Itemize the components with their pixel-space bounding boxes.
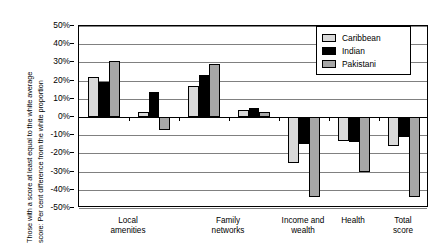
x-axis-tick-mark <box>129 117 130 121</box>
gridline <box>79 208 427 209</box>
bar-indian <box>399 117 410 137</box>
y-axis-tick-mark <box>70 152 74 153</box>
y-axis-tick-labels: 50%40%30%20%10%0%-10%-20%-30%-40%-50% <box>0 25 74 207</box>
bar-pakistani <box>159 117 170 130</box>
legend-item[interactable]: Pakistani <box>322 57 405 70</box>
y-axis-tick-label: 10% <box>53 93 70 102</box>
legend-item[interactable]: Indian <box>322 44 405 57</box>
gridline <box>79 172 427 173</box>
y-axis-tick-label: 0% <box>58 112 70 121</box>
bar-pakistani <box>359 117 370 172</box>
bar-pakistani <box>259 112 270 117</box>
x-axis-category-labels: Local amenitiesFamily networksIncome and… <box>78 210 428 246</box>
x-axis-tick-mark <box>379 117 380 121</box>
bar-indian <box>149 92 160 117</box>
bar-caribbean <box>288 117 299 163</box>
bar-caribbean <box>188 86 199 117</box>
bar-indian <box>249 108 260 117</box>
y-axis-tick-mark <box>70 207 74 208</box>
y-axis-tick-mark <box>70 134 74 135</box>
y-axis-tick-label: -20% <box>50 148 70 157</box>
legend-swatch-icon <box>322 47 336 55</box>
bar-pakistani <box>209 64 220 117</box>
y-axis-tick-label: -50% <box>50 203 70 212</box>
gridline <box>79 81 427 82</box>
zero-line <box>79 117 427 118</box>
y-axis-tick-label: -30% <box>50 166 70 175</box>
y-axis-tick-label: 30% <box>53 57 70 66</box>
y-axis-tick-mark <box>70 25 74 26</box>
x-axis-category-label: Total score <box>391 216 416 236</box>
gridline <box>79 190 427 191</box>
gridline <box>79 153 427 154</box>
legend-swatch-icon <box>322 34 336 42</box>
x-axis-category-label: Income and wealth <box>282 216 325 236</box>
bar-indian <box>199 75 210 117</box>
bar-caribbean <box>138 112 149 117</box>
y-axis-tick-label: -40% <box>50 184 70 193</box>
bar-indian <box>299 117 310 144</box>
x-axis-tick-mark <box>279 117 280 121</box>
y-axis-tick-mark <box>70 61 74 62</box>
legend-label: Indian <box>342 46 365 56</box>
bar-caribbean <box>388 117 399 146</box>
y-axis-tick-mark <box>70 171 74 172</box>
x-axis-category-label: Family networks <box>212 216 245 236</box>
bar-pakistani <box>409 117 420 197</box>
y-axis-tick-mark <box>70 43 74 44</box>
x-axis-category-label: Health <box>341 216 365 226</box>
legend-item[interactable]: Caribbean <box>322 31 405 44</box>
bar-chart: Those with a score at least equal to the… <box>0 0 436 249</box>
x-axis-tick-mark <box>329 117 330 121</box>
y-axis-tick-label: 40% <box>53 39 70 48</box>
bar-indian <box>99 82 110 117</box>
x-axis-tick-mark <box>229 117 230 121</box>
bar-indian <box>349 117 360 142</box>
bar-caribbean <box>238 110 249 117</box>
y-axis-tick-label: 50% <box>53 21 70 30</box>
bar-pakistani <box>309 117 320 197</box>
y-axis-tick-mark <box>70 189 74 190</box>
bar-caribbean <box>88 77 99 117</box>
bar-caribbean <box>338 117 349 141</box>
bar-pakistani <box>109 61 120 117</box>
y-axis-tick-mark <box>70 116 74 117</box>
legend-swatch-icon <box>322 60 336 68</box>
y-axis-tick-label: 20% <box>53 75 70 84</box>
y-axis-tick-mark <box>70 80 74 81</box>
x-axis-tick-mark <box>179 117 180 121</box>
legend-label: Pakistani <box>342 59 376 69</box>
y-axis-tick-label: -10% <box>50 130 70 139</box>
y-axis-tick-mark <box>70 98 74 99</box>
gridline <box>79 99 427 100</box>
gridline <box>79 135 427 136</box>
x-axis-category-label: Local amenities <box>110 216 145 236</box>
legend: CaribbeanIndianPakistani <box>316 26 411 75</box>
legend-label: Caribbean <box>342 33 381 43</box>
